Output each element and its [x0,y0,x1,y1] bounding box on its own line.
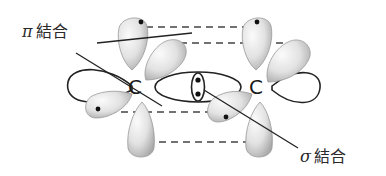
pi-bond-label: π結合 [22,24,68,40]
sigma-bond-label: σ結合 [300,149,346,165]
ethylene-orbital-diagram: C C π結合 σ結合 [0,0,386,176]
pi-symbol: π [22,22,33,41]
carbon-atom-left: C [128,77,142,97]
sigma-bond-text: 結合 [314,147,346,166]
pi-bond-text: 結合 [36,22,68,41]
sigma-symbol: σ [300,147,311,166]
carbon-atom-right: C [249,77,263,97]
sigma-electrons [195,77,200,96]
